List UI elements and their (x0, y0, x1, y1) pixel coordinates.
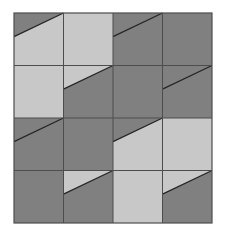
tile-r0-c1 (64, 13, 114, 66)
tile-solid-fill (14, 171, 64, 224)
tile-solid-fill (163, 13, 213, 66)
tile-r0-c3 (163, 13, 213, 66)
tile-r1-c3 (163, 66, 213, 119)
tile-r3-c3 (163, 171, 213, 224)
tile-r2-c2 (113, 118, 163, 171)
tile-r0-c0 (14, 13, 64, 66)
tile-solid-fill (14, 118, 64, 171)
tile-r2-c0 (14, 118, 64, 171)
tile-solid-fill (113, 13, 163, 66)
tile-solid-fill (64, 13, 114, 66)
tile-r2-c3 (163, 118, 213, 171)
tile-r1-c2 (113, 66, 163, 119)
tile-solid-fill (64, 118, 114, 171)
tile-r1-c0 (14, 66, 64, 119)
tile-solid-fill (113, 66, 163, 119)
tile-solid-fill (14, 66, 64, 119)
tile-r1-c1 (64, 66, 114, 119)
quilt-pattern-figure (0, 0, 227, 240)
tile-r3-c0 (14, 171, 64, 224)
quilt-grid-svg (13, 12, 213, 224)
tile-solid-fill (113, 171, 163, 224)
tile-solid-fill (163, 118, 213, 171)
tile-solid-fill (163, 66, 213, 119)
tile-r0-c2 (113, 13, 163, 66)
tile-r3-c2 (113, 171, 163, 224)
tile-r2-c1 (64, 118, 114, 171)
tile-r3-c1 (64, 171, 114, 224)
